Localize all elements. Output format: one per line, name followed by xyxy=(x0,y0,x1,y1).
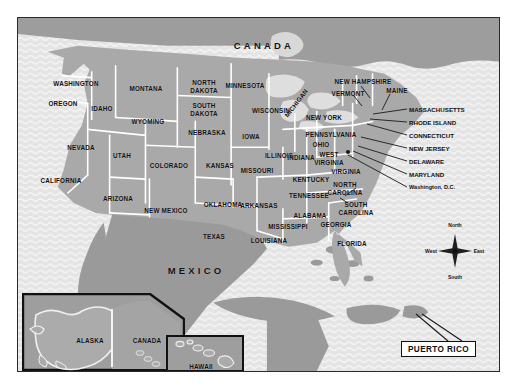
callout-label-maryland: MARYLAND xyxy=(409,171,444,178)
washington-dc-marker xyxy=(346,150,350,154)
state-label-north-dakota-line1: NORTH xyxy=(192,79,215,86)
state-label-kentucky: KENTUCKY xyxy=(293,176,330,183)
state-label-mississippi: MISSISSIPPI xyxy=(268,223,308,230)
state-label-north-dakota-line2: DAKOTA xyxy=(190,87,218,94)
state-label-new-mexico: NEW MEXICO xyxy=(144,207,187,214)
country-label-mexico: MEXICO xyxy=(168,265,225,276)
state-label-north-carolina-line1: NORTH xyxy=(333,181,356,188)
inset-label-hawaii: HAWAII xyxy=(189,363,213,370)
state-label-oklahoma: OKLAHOMA xyxy=(204,201,243,208)
state-label-minnesota: MINNESOTA xyxy=(225,82,264,89)
state-label-new-york: NEW YORK xyxy=(306,114,342,121)
callout-label-rhode-island: RHODE ISLAND xyxy=(409,119,456,126)
state-label-tennessee: TENNESSEE xyxy=(289,192,329,199)
inset-label-alaska: ALASKA xyxy=(76,337,103,344)
inset-label-canada: CANADA xyxy=(133,337,162,344)
state-label-texas: TEXAS xyxy=(203,233,225,240)
map-frame: CANADA MEXICO WASHINGTON OREGON IDAHO MO… xyxy=(17,17,500,372)
state-label-missouri: MISSOURI xyxy=(241,167,274,174)
state-label-north-carolina-line2: CAROLINA xyxy=(328,189,363,196)
state-label-california: CALIFORNIA xyxy=(41,177,82,184)
state-label-vermont: VERMONT xyxy=(332,90,365,97)
state-label-montana: MONTANA xyxy=(129,85,162,92)
state-label-arizona: ARIZONA xyxy=(103,195,133,202)
callout-label-new-jersey: NEW JERSEY xyxy=(409,145,450,152)
state-label-west-virginia-line2: VIRGINIA xyxy=(314,159,344,166)
state-label-utah: UTAH xyxy=(113,152,131,159)
state-label-south-dakota-line2: DAKOTA xyxy=(190,110,218,117)
state-label-washington: WASHINGTON xyxy=(53,80,98,87)
state-label-nebraska: NEBRASKA xyxy=(188,129,225,136)
callout-label-massachusetts: MASSACHUSETTS xyxy=(409,106,465,113)
callout-label-delaware: DELAWARE xyxy=(409,158,444,165)
state-label-arkansas: ARKANSAS xyxy=(240,202,277,209)
compass-label-south: South xyxy=(448,274,462,280)
state-label-idaho: IDAHO xyxy=(91,105,112,112)
state-label-south-carolina-line2: CAROLINA xyxy=(339,209,374,216)
compass-label-east: East xyxy=(474,248,485,254)
state-label-south-carolina-line1: SOUTH xyxy=(344,201,367,208)
compass-label-west: West xyxy=(425,248,437,254)
compass-rose: North South East West xyxy=(424,220,486,282)
state-label-colorado: COLORADO xyxy=(150,162,188,169)
compass-label-north: North xyxy=(448,222,461,228)
callout-label-connecticut: CONNECTICUT xyxy=(409,132,454,139)
state-label-alabama: ALABAMA xyxy=(293,212,326,219)
state-label-pennsylvania: PENNSYLVANIA xyxy=(306,131,357,138)
state-label-florida: FLORIDA xyxy=(337,240,366,247)
state-label-kansas: KANSAS xyxy=(206,162,234,169)
state-label-oregon: OREGON xyxy=(48,100,77,107)
state-label-louisiana: LOUISIANA xyxy=(251,237,287,244)
state-label-maine: MAINE xyxy=(386,87,407,94)
state-label-wyoming: WYOMING xyxy=(132,118,165,125)
state-label-georgia: GEORGIA xyxy=(320,221,351,228)
state-label-south-dakota-line1: SOUTH xyxy=(192,102,215,109)
country-label-canada: CANADA xyxy=(234,40,294,51)
us-reference-map: CANADA MEXICO WASHINGTON OREGON IDAHO MO… xyxy=(0,0,519,392)
alaska-inset xyxy=(22,293,185,371)
puerto-rico-tag: PUERTO RICO xyxy=(401,341,476,357)
state-label-ohio: OHIO xyxy=(313,141,330,148)
callout-label-washington-dc: Washington, D.C. xyxy=(409,184,455,190)
state-label-virginia: VIRGINIA xyxy=(331,168,361,175)
map-label-layer: CANADA MEXICO WASHINGTON OREGON IDAHO MO… xyxy=(18,18,500,372)
state-label-new-hampshire: NEW HAMPSHIRE xyxy=(335,78,392,85)
state-label-indiana: INDIANA xyxy=(287,154,315,161)
state-label-nevada: NEVADA xyxy=(67,144,94,151)
state-label-iowa: IOWA xyxy=(242,133,260,140)
state-label-west-virginia-line1: WEST xyxy=(320,151,339,158)
